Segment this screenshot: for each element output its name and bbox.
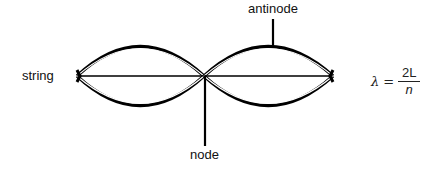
node-label: node (190, 148, 219, 162)
antinode-label: antinode (248, 2, 298, 16)
denominator: n (406, 83, 413, 97)
standing-wave-figure (0, 0, 426, 170)
string-label: string (22, 69, 54, 83)
numerator: 2L (402, 66, 416, 80)
lambda-symbol: λ (371, 74, 379, 89)
fraction: 2L n (398, 66, 420, 97)
wavelength-formula: λ = 2L n (371, 66, 420, 97)
equals-sign: = (383, 74, 394, 89)
